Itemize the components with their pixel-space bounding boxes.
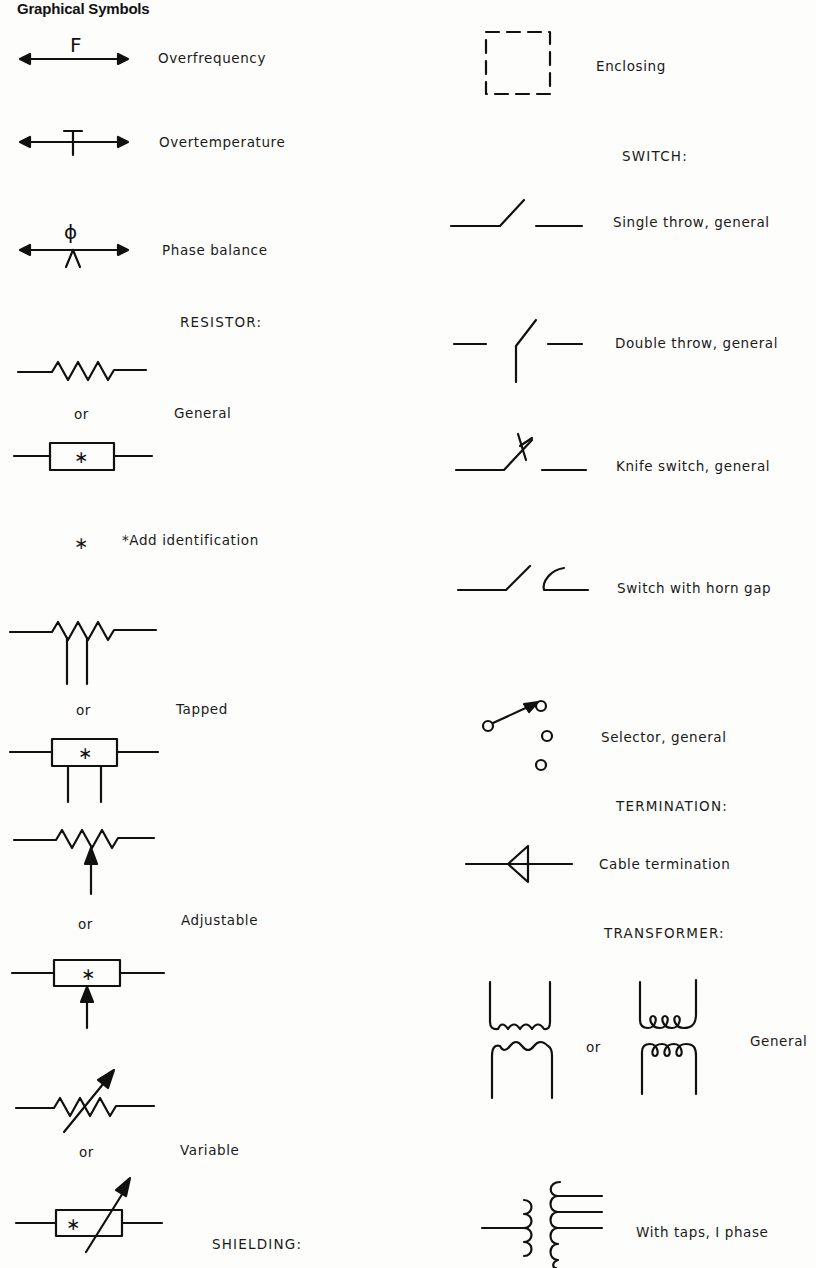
label-switch-double-throw: Double throw, general [615,335,778,351]
label-transformer-with-taps: With taps, I phase [636,1224,769,1240]
switch-knife-icon [452,432,588,476]
label-switch-horn-gap: Switch with horn gap [617,580,771,596]
or-resistor-adjustable: or [78,916,93,932]
transformer-general-icon [486,980,556,1102]
resistor-adjustable-zigzag-icon [12,826,158,898]
heading-switch: SWITCH: [622,148,688,164]
switch-double-throw-icon [450,316,586,386]
heading-termination: TERMINATION: [616,798,728,814]
phi-letter: ϕ [64,220,77,244]
label-phase-balance: Phase balance [162,242,268,258]
switch-horn-gap-icon [454,560,590,596]
or-transformer: or [586,1039,601,1055]
heading-resistor: RESISTOR: [180,314,262,330]
resistor-adjustable-box-icon: ∗ [10,958,166,1032]
or-resistor-variable: or [79,1144,94,1160]
selector-switch-icon [478,698,558,776]
label-resistor-tapped: Tapped [176,701,228,717]
switch-single-throw-icon [448,196,586,232]
label-switch-single-throw: Single throw, general [613,214,770,230]
cable-termination-icon [464,842,576,886]
overtemperature-symbol-icon [18,128,133,158]
enclosing-dashed-box-icon [482,30,554,98]
label-overtemperature: Overtemperature [159,134,285,150]
or-resistor-general: or [74,406,89,422]
label-resistor-adjustable: Adjustable [181,912,258,928]
page-title: Graphical Symbols [17,0,149,17]
resistor-box-icon: ∗ [12,440,154,472]
frequency-letter: F [70,33,82,57]
label-add-identification: *Add identification [122,532,259,548]
label-cable-termination: Cable termination [599,856,730,872]
label-selector-general: Selector, general [601,729,727,745]
resistor-variable-box-icon: ∗ [14,1172,164,1258]
transformer-looped-icon [636,978,702,1100]
resistor-variable-zigzag-icon [14,1064,160,1136]
resistor-tapped-box-icon: ∗ [8,736,160,804]
overfrequency-symbol-icon: F [18,30,133,70]
label-enclosing: Enclosing [596,58,666,74]
svg-text:∗: ∗ [78,743,92,763]
svg-text:∗: ∗ [66,1214,80,1234]
resistor-tapped-zigzag-icon [8,618,158,688]
label-overfrequency: Overfrequency [158,50,266,66]
label-resistor-variable: Variable [180,1142,239,1158]
label-switch-knife: Knife switch, general [616,458,770,474]
label-transformer-general: General [750,1033,807,1049]
heading-shielding: SHIELDING: [212,1236,302,1252]
or-resistor-tapped: or [76,702,91,718]
transformer-with-taps-icon [478,1178,608,1268]
asterisk-note-symbol: ∗ [74,533,89,553]
svg-text:∗: ∗ [81,964,95,984]
heading-transformer: TRANSFORMER: [604,925,725,941]
label-resistor-general: General [174,405,231,421]
phase-balance-symbol-icon: ϕ [18,218,133,270]
resistor-zigzag-icon [16,358,148,384]
svg-text:∗: ∗ [74,447,88,467]
